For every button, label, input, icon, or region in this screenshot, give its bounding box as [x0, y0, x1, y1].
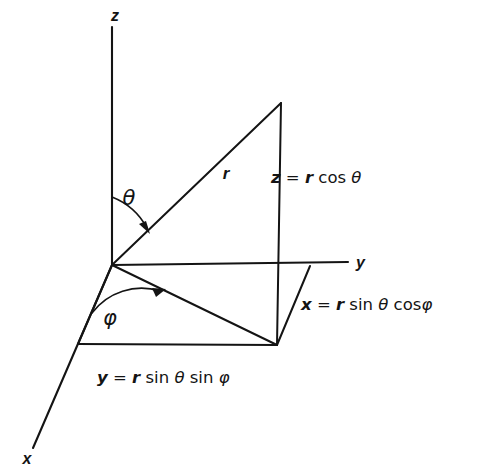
y-equation-fn2: sin: [184, 368, 218, 387]
theta-arrowhead-icon: [139, 221, 150, 234]
z-equation-lhs: z: [270, 168, 281, 187]
phi-label: φ: [103, 306, 117, 330]
y-equation-theta: θ: [174, 368, 184, 387]
radius-label: r: [223, 164, 231, 183]
phi-arrowhead-icon: [152, 288, 166, 297]
y-equation-label: y = r sin θ sin φ: [97, 368, 230, 387]
diagram-canvas: z y x r θ φ z = r cos θ x = r sin θ cosφ…: [0, 0, 478, 474]
base-edge-bottom: [78, 344, 277, 345]
z-equation-label: z = r cos θ: [270, 168, 361, 187]
y-axis-line: [112, 262, 348, 265]
x-equation-fn2: cos: [388, 295, 421, 314]
y-axis-label: y: [355, 254, 366, 271]
y-equation-phi: φ: [219, 368, 230, 387]
z-equation-eq: =: [281, 168, 305, 187]
z-component-line: [277, 103, 281, 345]
spherical-coordinates-figure: z y x r θ φ z = r cos θ x = r sin θ cosφ…: [0, 0, 478, 474]
theta-label: θ: [123, 186, 136, 210]
xy-projection-line: [112, 265, 277, 345]
y-equation-eq: =: [108, 368, 132, 387]
z-axis-label: z: [110, 7, 119, 24]
x-equation-fn: sin: [344, 295, 378, 314]
base-edge-left: [78, 265, 112, 344]
z-equation-fn: cos: [313, 168, 351, 187]
x-equation-phi: φ: [421, 295, 432, 314]
y-equation-fn: sin: [140, 368, 174, 387]
z-equation-theta: θ: [351, 168, 361, 187]
radius-ray-line: [112, 103, 281, 265]
x-equation-label: x = r sin θ cosφ: [300, 295, 432, 314]
x-equation-theta: θ: [378, 295, 388, 314]
x-equation-eq: =: [312, 295, 336, 314]
x-axis-label: x: [22, 450, 33, 467]
